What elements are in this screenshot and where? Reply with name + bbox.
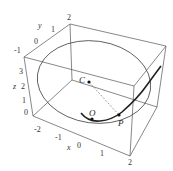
y-axis-label: y xyxy=(38,22,42,30)
bounding-box xyxy=(24,24,166,156)
z-axis-label: z xyxy=(13,83,16,91)
y-tick: 1 xyxy=(51,26,55,34)
y-tick: -1 xyxy=(14,47,21,55)
x-axis-label: x xyxy=(67,144,71,152)
label-c: C xyxy=(79,76,85,85)
label-p: P xyxy=(118,119,124,128)
label-o: O xyxy=(89,109,96,118)
x-tick: -1 xyxy=(55,134,62,142)
z-tick: 0 xyxy=(24,109,28,117)
point-p xyxy=(117,113,120,116)
y-tick: 2 xyxy=(67,14,71,22)
z-tick: 2 xyxy=(21,83,25,91)
x-tick: 2 xyxy=(128,159,132,167)
x-tick: 0 xyxy=(77,142,81,150)
z-tick: 1 xyxy=(22,97,26,105)
y-tick: 0 xyxy=(34,38,38,46)
point-c xyxy=(87,80,90,83)
z-tick: 3 xyxy=(19,68,23,76)
x-tick: 1 xyxy=(100,150,104,158)
3d-figure xyxy=(0,0,173,171)
x-tick: -2 xyxy=(34,126,41,134)
